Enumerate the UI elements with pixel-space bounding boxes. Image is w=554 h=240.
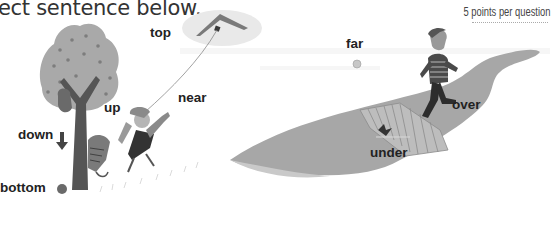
label-top: top bbox=[150, 25, 171, 40]
ball-bottom-icon bbox=[57, 184, 67, 194]
cat-icon bbox=[88, 135, 110, 177]
label-up: up bbox=[104, 100, 121, 115]
ball-far-icon bbox=[353, 60, 361, 68]
bird-icon bbox=[58, 89, 72, 113]
girl-icon bbox=[118, 107, 170, 172]
label-far: far bbox=[346, 36, 363, 51]
down-arrow-icon bbox=[56, 132, 68, 150]
label-bottom: bottom bbox=[0, 180, 46, 195]
label-under: under bbox=[370, 145, 408, 160]
grass-icon bbox=[100, 162, 198, 192]
label-near: near bbox=[178, 90, 207, 105]
label-down: down bbox=[18, 127, 53, 142]
label-over: over bbox=[452, 97, 481, 112]
